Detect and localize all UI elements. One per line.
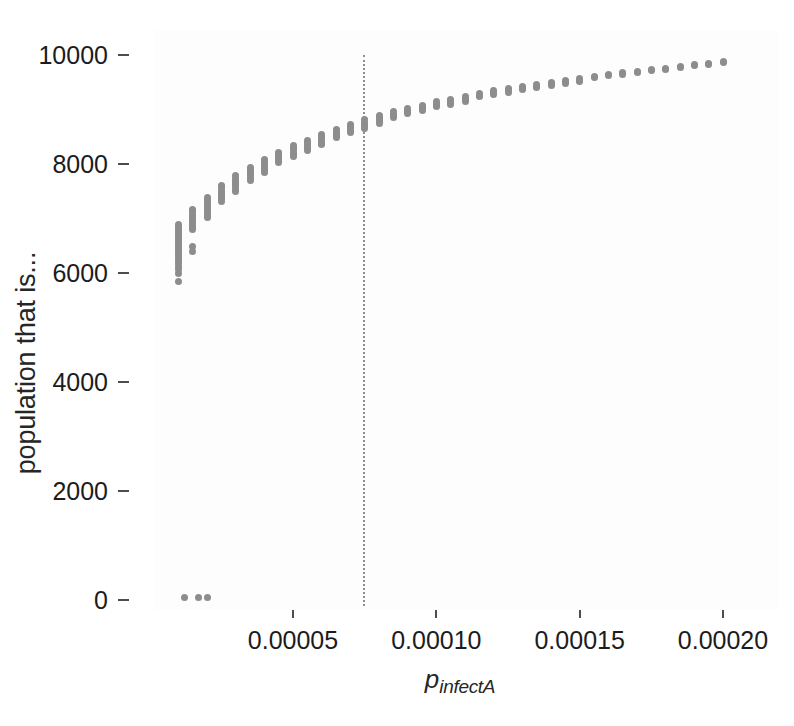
y-axis-tick-mark <box>118 599 129 601</box>
y-axis-tick-mark <box>118 54 129 56</box>
y-axis-tick-label: 2000 <box>0 477 108 506</box>
x-axis-tick-label: 0.00005 <box>213 626 373 655</box>
y-axis-tick-label: 0 <box>0 586 108 615</box>
data-point <box>505 89 512 96</box>
data-point <box>361 125 368 132</box>
data-point <box>347 129 354 136</box>
data-point <box>189 248 196 255</box>
data-point <box>648 67 655 74</box>
data-point <box>175 270 182 277</box>
data-point <box>462 98 469 105</box>
data-point <box>433 103 440 110</box>
data-point <box>261 169 268 176</box>
y-axis-tick-label: 10000 <box>0 41 108 70</box>
data-point <box>591 74 598 81</box>
data-point <box>605 72 612 79</box>
data-point <box>720 59 727 66</box>
reference-line-vertical <box>363 55 365 606</box>
data-point <box>619 71 626 78</box>
y-axis-tick-label: 4000 <box>0 368 108 397</box>
data-point <box>181 594 188 601</box>
x-axis-title-base: p <box>425 664 439 694</box>
y-axis-title: population that is... <box>0 0 52 726</box>
x-axis-tick-label: 0.00010 <box>356 626 516 655</box>
data-point <box>218 198 225 205</box>
y-axis-tick-mark <box>118 490 129 492</box>
data-point <box>195 594 202 601</box>
data-point <box>304 147 311 154</box>
data-point <box>175 278 182 285</box>
y-axis-tick-mark <box>118 163 129 165</box>
data-point <box>404 110 411 117</box>
data-point <box>419 107 426 114</box>
data-point <box>318 141 325 148</box>
data-point <box>634 69 641 76</box>
data-point <box>290 153 297 160</box>
data-point <box>376 120 383 127</box>
data-point <box>204 594 211 601</box>
data-point <box>189 226 196 233</box>
data-point <box>562 80 569 87</box>
data-point <box>333 134 340 141</box>
x-axis-title: pinfectA <box>150 664 770 698</box>
x-axis-tick-label: 0.00015 <box>500 626 660 655</box>
y-axis-tick-label: 6000 <box>0 259 108 288</box>
data-point <box>533 84 540 91</box>
data-point <box>247 177 254 184</box>
scatter-plot-figure: population that is... 020004000600080001… <box>0 0 794 726</box>
data-point <box>519 86 526 93</box>
data-point <box>232 188 239 195</box>
data-point <box>662 66 669 73</box>
data-point <box>476 93 483 100</box>
plot-panel <box>155 30 779 610</box>
data-point <box>204 214 211 221</box>
data-point <box>576 78 583 85</box>
y-axis-tick-label: 8000 <box>0 150 108 179</box>
data-point <box>447 101 454 108</box>
data-point <box>677 64 684 71</box>
data-point <box>548 82 555 89</box>
data-point <box>390 114 397 121</box>
data-point <box>691 62 698 69</box>
data-point <box>275 159 282 166</box>
data-point <box>705 61 712 68</box>
x-axis-tick-label: 0.00020 <box>643 626 794 655</box>
y-axis-tick-mark <box>118 272 129 274</box>
y-axis-tick-mark <box>118 381 129 383</box>
x-axis-title-subscript: infectA <box>439 676 495 697</box>
data-point <box>490 91 497 98</box>
